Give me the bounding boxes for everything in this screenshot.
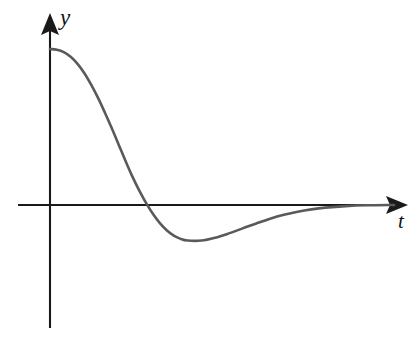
t-axis-label: t: [398, 211, 404, 232]
figure-canvas: y t: [0, 0, 419, 347]
plot-area: [0, 0, 419, 347]
damped-response-curve: [50, 49, 394, 241]
y-axis-label: y: [60, 6, 70, 29]
